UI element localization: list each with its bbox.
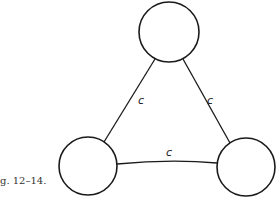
figure-caption: g. 12–14. [0,175,46,186]
node-bottom-right [217,138,275,196]
edge-label-left: c [138,94,144,107]
node-top [139,2,199,62]
triangle-diagram: c c c [0,0,279,199]
edge-top-bottom-left [104,59,155,142]
node-bottom-left [59,137,117,195]
edge-bottom-left-bottom-right [117,161,217,164]
edge-label-right: c [207,94,213,107]
edge-label-bottom: c [166,146,172,159]
